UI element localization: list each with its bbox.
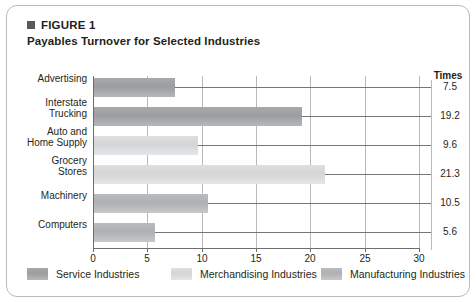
- value-label-auto-and-home-supply: 9.6: [431, 139, 469, 150]
- legend-item-manufacturing-industries: Manufacturing Industries: [321, 268, 465, 280]
- tick-mark-0: [93, 248, 94, 252]
- category-label-grocery-stores: Grocery Stores: [0, 155, 87, 178]
- legend-swatch-service-industries: [27, 268, 48, 280]
- chart-legend: Service Industries Merchandising Industr…: [27, 268, 451, 286]
- tick-label-5: 5: [135, 253, 159, 264]
- filled-square-icon: [27, 21, 35, 29]
- figure-card: FIGURE 1 Payables Turnover for Selected …: [6, 5, 470, 297]
- category-label-advertising: Advertising: [0, 73, 87, 84]
- legend-label-service-industries: Service Industries: [56, 268, 139, 280]
- tick-label-30: 30: [407, 253, 431, 264]
- chart-plot-area: Advertising Interstate Trucking Auto and…: [7, 68, 469, 258]
- gridline-20: [310, 76, 311, 248]
- legend-item-merchandising-industries: Merchandising Industries: [171, 268, 317, 280]
- bar-interstate-trucking: [94, 107, 302, 126]
- value-label-interstate-trucking: 19.2: [431, 110, 469, 121]
- tick-mark-5: [147, 248, 148, 252]
- legend-label-merchandising-industries: Merchandising Industries: [200, 268, 317, 280]
- leader-line-advertising: [175, 87, 431, 88]
- gridline-30: [419, 76, 420, 248]
- gridline-25: [365, 76, 366, 248]
- tick-mark-25: [365, 248, 366, 252]
- tick-mark-10: [202, 248, 203, 252]
- figure-header: FIGURE 1 Payables Turnover for Selected …: [27, 18, 260, 48]
- bar-machinery: [94, 194, 208, 213]
- gridline-10: [202, 76, 203, 248]
- figure-number-label: FIGURE 1: [41, 19, 96, 31]
- leader-line-computers: [155, 232, 431, 233]
- tick-mark-20: [310, 248, 311, 252]
- tick-label-15: 15: [244, 253, 268, 264]
- category-label-machinery: Machinery: [0, 190, 87, 201]
- value-label-advertising: 7.5: [431, 81, 469, 92]
- category-label-computers: Computers: [0, 219, 87, 230]
- value-label-computers: 5.6: [431, 226, 469, 237]
- legend-label-manufacturing-industries: Manufacturing Industries: [350, 268, 465, 280]
- tick-label-25: 25: [353, 253, 377, 264]
- leader-line-auto-and-home-supply: [198, 145, 431, 146]
- tick-label-20: 20: [298, 253, 322, 264]
- leader-line-interstate-trucking: [302, 116, 431, 117]
- values-column-rule: [431, 80, 432, 250]
- value-label-machinery: 10.5: [431, 197, 469, 208]
- leader-line-machinery: [208, 203, 431, 204]
- tick-label-10: 10: [190, 253, 214, 264]
- figure-label-row: FIGURE 1: [27, 18, 260, 32]
- legend-swatch-merchandising-industries: [171, 268, 192, 280]
- tick-label-0: 0: [81, 253, 105, 264]
- tick-mark-15: [256, 248, 257, 252]
- leader-line-grocery-stores: [325, 174, 431, 175]
- bar-advertising: [94, 78, 175, 97]
- bar-auto-and-home-supply: [94, 136, 198, 155]
- legend-item-service-industries: Service Industries: [27, 268, 139, 280]
- bar-grocery-stores: [94, 165, 325, 184]
- bar-computers: [94, 223, 155, 242]
- category-label-interstate-trucking: Interstate Trucking: [0, 97, 87, 120]
- values-column-header: Times: [427, 70, 469, 81]
- figure-title: Payables Turnover for Selected Industrie…: [27, 35, 260, 48]
- tick-mark-30: [419, 248, 420, 252]
- category-axis-labels: Advertising Interstate Trucking Auto and…: [0, 68, 87, 243]
- category-label-auto-and-home-supply: Auto and Home Supply: [0, 126, 87, 149]
- legend-swatch-manufacturing-industries: [321, 268, 342, 280]
- gridline-15: [256, 76, 257, 248]
- value-label-grocery-stores: 21.3: [431, 168, 469, 179]
